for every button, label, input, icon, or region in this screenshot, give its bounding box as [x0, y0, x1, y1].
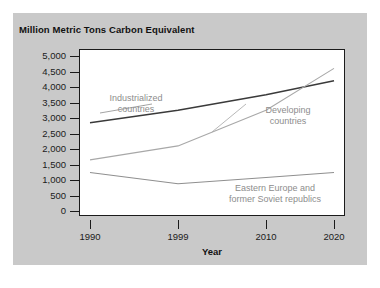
series-label-eastern: Eastern Europe and former Soviet republi… [204, 183, 346, 204]
y-tick-mark [70, 72, 79, 73]
series-label-industrialized-line2: countries [86, 104, 186, 115]
x-tick-mark [334, 220, 335, 229]
y-tick-mark [70, 180, 79, 181]
y-tick-label: 3,500 [22, 97, 66, 108]
chart-figure: Million Metric Tons Carbon Equivalent 5,… [0, 0, 380, 288]
y-tick-label: 4,000 [22, 81, 66, 92]
series-label-developing-line1: Developing [238, 105, 338, 116]
series-label-developing-line2: countries [238, 116, 338, 127]
y-tick-label: 2,000 [22, 143, 66, 154]
y-tick-mark [70, 118, 79, 119]
y-tick-label: 500 [22, 190, 66, 201]
y-tick-mark [70, 196, 79, 197]
series-label-industrialized-line1: Industrialized [86, 93, 186, 104]
y-tick-label: 3,000 [22, 112, 66, 123]
y-tick-label: 1,000 [22, 174, 66, 185]
series-label-industrialized: Industrialized countries [86, 93, 186, 114]
x-axis-title: Year [79, 246, 345, 257]
y-tick-label: 0 [22, 205, 66, 216]
y-tick-mark [70, 165, 79, 166]
x-tick-label: 2020 [310, 231, 358, 242]
y-tick-mark [70, 211, 79, 212]
series-label-eastern-line2: former Soviet republics [204, 194, 346, 205]
series-label-developing: Developing countries [238, 105, 338, 126]
y-tick-mark [70, 149, 79, 150]
x-tick-label: 1990 [66, 231, 114, 242]
y-tick-label: 2,500 [22, 128, 66, 139]
y-tick-label: 4,500 [22, 66, 66, 77]
x-tick-label: 2010 [242, 231, 290, 242]
y-tick-mark [70, 56, 79, 57]
x-tick-mark [266, 220, 267, 229]
y-tick-mark [70, 134, 79, 135]
x-tick-label: 1999 [154, 231, 202, 242]
series-label-eastern-line1: Eastern Europe and [204, 183, 346, 194]
y-tick-mark [70, 103, 79, 104]
y-tick-mark [70, 87, 79, 88]
x-tick-mark [90, 220, 91, 229]
x-tick-mark [178, 220, 179, 229]
y-tick-label: 1,500 [22, 159, 66, 170]
y-tick-label: 5,000 [22, 50, 66, 61]
